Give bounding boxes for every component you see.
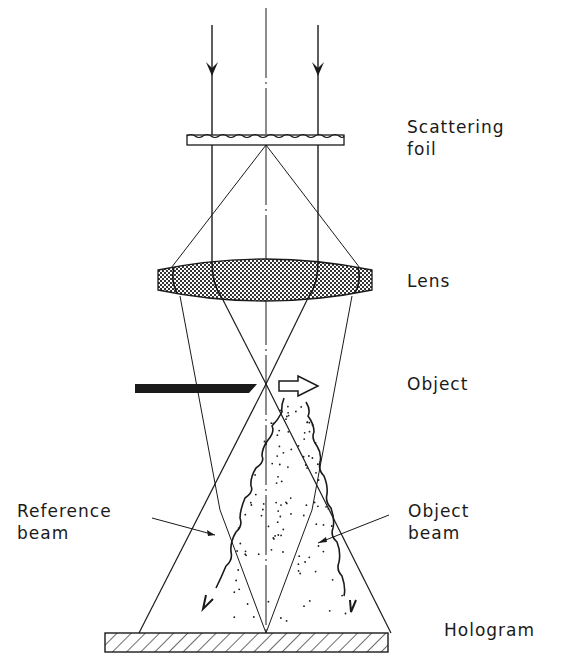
hologram-plate bbox=[105, 633, 388, 652]
label-scattering-foil: Scatteringfoil bbox=[407, 116, 505, 160]
speckle-dot bbox=[290, 513, 292, 515]
speckle-dot bbox=[300, 406, 302, 408]
speckle-dot bbox=[279, 446, 281, 448]
speckle-dot bbox=[318, 545, 320, 547]
speckle-dot bbox=[287, 412, 289, 414]
label-object: Object bbox=[407, 373, 468, 395]
speckle-dot bbox=[305, 464, 307, 466]
speckle-dot bbox=[306, 504, 308, 506]
speckle-dot bbox=[253, 616, 255, 618]
speckle-dot bbox=[287, 406, 289, 408]
speckle-dot bbox=[244, 514, 246, 516]
speckle-dot bbox=[258, 553, 260, 555]
speckle-dot bbox=[328, 508, 330, 510]
speckle-dot bbox=[317, 505, 319, 507]
speckle-dot bbox=[233, 591, 235, 593]
speckle-dot bbox=[308, 556, 310, 558]
speckle-dot bbox=[268, 526, 270, 528]
speckle-dot bbox=[274, 535, 276, 537]
speckle-dot bbox=[290, 497, 292, 499]
label-line: Object bbox=[408, 501, 469, 521]
focused-rays bbox=[139, 298, 391, 633]
speckle-dot bbox=[312, 457, 314, 459]
speckle-dot bbox=[276, 455, 278, 457]
incident-beam-left bbox=[206, 25, 218, 270]
speckle-dot bbox=[309, 600, 311, 602]
speckle-dot bbox=[341, 595, 343, 597]
speckle-dot bbox=[247, 603, 249, 605]
speckle-dot bbox=[279, 516, 281, 518]
speckle-dot bbox=[298, 570, 300, 572]
speckle-dot bbox=[265, 442, 267, 444]
speckle-dot bbox=[271, 463, 273, 465]
speckle-dot bbox=[285, 418, 287, 420]
speckle-dot bbox=[251, 504, 253, 506]
speckle-dot bbox=[304, 432, 306, 434]
speckle-dot bbox=[236, 550, 238, 552]
speckle-dot bbox=[323, 551, 325, 553]
speckle-dot bbox=[245, 550, 247, 552]
speckle-dot bbox=[270, 422, 272, 424]
speckle-dot bbox=[299, 573, 301, 575]
speckle-dot bbox=[286, 416, 288, 418]
speckle-dot bbox=[272, 537, 274, 539]
speckle-dot bbox=[239, 543, 241, 545]
speckle-dot bbox=[282, 529, 284, 531]
speckle-dot bbox=[277, 476, 279, 478]
speckle-dot bbox=[272, 423, 274, 425]
speckle-dot bbox=[303, 438, 305, 440]
speckle-dot bbox=[331, 525, 333, 527]
object-beam-speckle bbox=[233, 406, 346, 622]
label-line: beam bbox=[408, 523, 460, 543]
label-line: beam bbox=[17, 523, 69, 543]
speckle-dot bbox=[298, 445, 300, 447]
speckle-dot bbox=[275, 502, 277, 504]
pointer-arrowhead-icon bbox=[207, 530, 215, 536]
speckle-dot bbox=[271, 549, 273, 551]
speckle-dot bbox=[277, 534, 279, 536]
speckle-dot bbox=[315, 571, 317, 573]
speckle-dot bbox=[250, 502, 252, 504]
holography-setup-diagram bbox=[0, 0, 570, 670]
speckle-dot bbox=[298, 555, 300, 557]
speckle-dot bbox=[237, 569, 239, 571]
speckle-dot bbox=[233, 616, 235, 618]
speckle-dot bbox=[309, 431, 311, 433]
speckle-dot bbox=[304, 561, 306, 563]
object-edge bbox=[135, 384, 257, 393]
speckle-dot bbox=[288, 415, 290, 417]
speckle-dot bbox=[277, 521, 279, 523]
speckle-dot bbox=[268, 601, 270, 603]
motion-arrow-icon bbox=[279, 376, 318, 396]
reference-beam-pointer bbox=[152, 518, 215, 535]
speckle-dot bbox=[279, 410, 281, 412]
speckle-dot bbox=[282, 551, 284, 553]
speckle-dot bbox=[287, 431, 289, 433]
speckle-dot bbox=[303, 605, 305, 607]
speckle-dot bbox=[265, 443, 267, 445]
speckle-dot bbox=[264, 441, 266, 443]
speckle-dot bbox=[263, 503, 265, 505]
label-reference-beam: Referencebeam bbox=[17, 500, 112, 544]
speckle-dot bbox=[303, 456, 305, 458]
speckle-dot bbox=[290, 449, 292, 451]
speckle-dot bbox=[308, 455, 310, 457]
speckle-dot bbox=[285, 501, 287, 503]
speckle-dot bbox=[254, 474, 256, 476]
speckle-dot bbox=[261, 515, 263, 517]
speckle-dot bbox=[281, 481, 283, 483]
speckle-dot bbox=[325, 506, 327, 508]
speckle-dot bbox=[238, 588, 240, 590]
label-line: Reference bbox=[17, 501, 112, 521]
speckle-dot bbox=[280, 617, 282, 619]
speckle-dot bbox=[262, 509, 264, 511]
incident-beam-right bbox=[312, 25, 324, 270]
speckle-dot bbox=[276, 482, 278, 484]
speckle-dot bbox=[280, 504, 282, 506]
label-hologram: Hologram bbox=[444, 619, 535, 641]
speckle-dot bbox=[283, 452, 285, 454]
lens bbox=[158, 259, 372, 301]
speckle-dot bbox=[306, 467, 308, 469]
speckle-dot bbox=[307, 421, 309, 423]
speckle-dot bbox=[279, 464, 281, 466]
